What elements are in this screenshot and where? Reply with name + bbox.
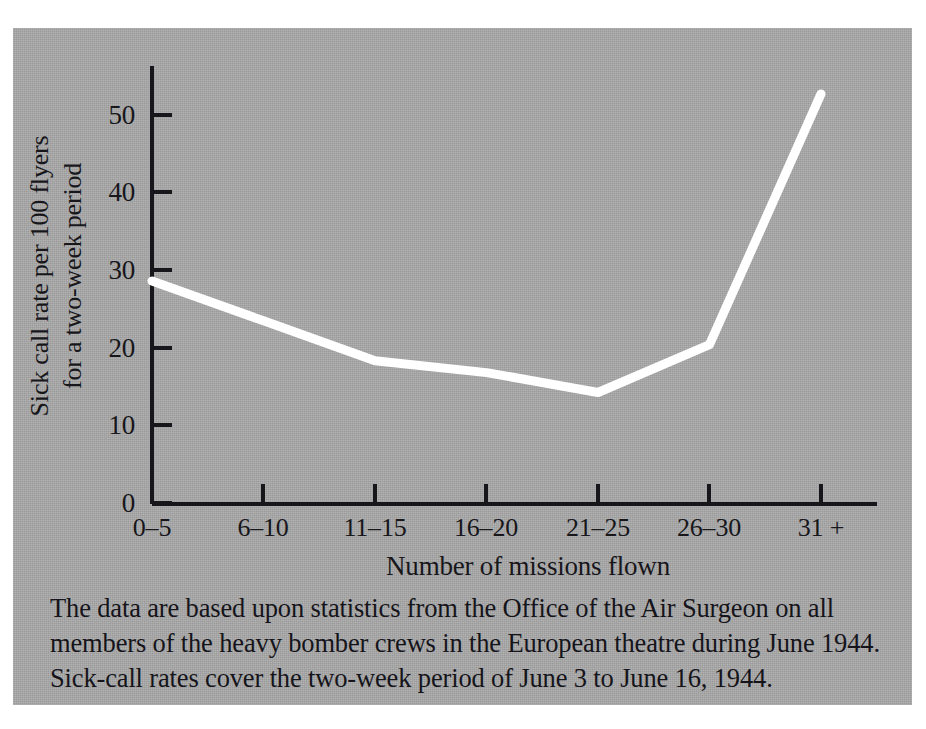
figure-root: 0 10 20 30 40 50 0–5 6–10 11–15 16–20 21… bbox=[0, 0, 926, 729]
figure-caption: The data are based upon statistics from … bbox=[50, 591, 900, 696]
y-tick-marks bbox=[152, 115, 172, 503]
plot-area: 0 10 20 30 40 50 0–5 6–10 11–15 16–20 21… bbox=[13, 28, 912, 705]
x-tick-marks bbox=[152, 484, 821, 504]
y-axis-title: Sick call rate per 100 flyers for a two-… bbox=[23, 111, 89, 441]
caption-line-2: members of the heavy bomber crews in the… bbox=[50, 626, 900, 661]
x-tick-label-26-30: 26–30 bbox=[644, 515, 774, 541]
caption-line-3: Sick-call rates cover the two-week perio… bbox=[50, 661, 900, 696]
chart-panel: 0 10 20 30 40 50 0–5 6–10 11–15 16–20 21… bbox=[13, 28, 912, 705]
y-tick-label-0: 0 bbox=[75, 490, 135, 517]
x-tick-label-31-plus: 31 + bbox=[756, 515, 886, 541]
x-axis-title: Number of missions flown bbox=[163, 551, 893, 581]
y-axis-title-line-2: for a two-week period bbox=[56, 111, 89, 441]
x-tick-label-6-10: 6–10 bbox=[198, 515, 328, 541]
data-series-line bbox=[152, 94, 821, 393]
caption-line-1: The data are based upon statistics from … bbox=[50, 591, 900, 626]
y-axis-title-line-1: Sick call rate per 100 flyers bbox=[23, 111, 56, 441]
x-tick-label-16-20: 16–20 bbox=[421, 515, 551, 541]
